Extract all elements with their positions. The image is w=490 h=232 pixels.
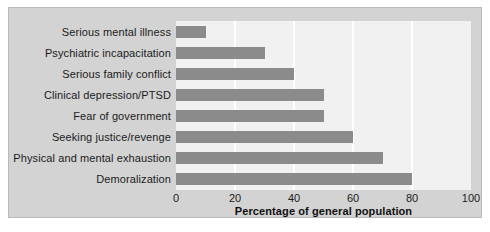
- category-label-row: Clinical depression/PTSD: [9, 84, 171, 105]
- category-label: Physical and mental exhaustion: [13, 152, 171, 164]
- bar-row: [176, 42, 471, 63]
- x-tick-label: 40: [288, 192, 300, 204]
- category-label: Serious mental illness: [62, 26, 171, 38]
- x-tick-label: 80: [406, 192, 418, 204]
- category-label: Seeking justice/revenge: [52, 131, 171, 143]
- bar: [176, 152, 383, 164]
- x-axis-title: Percentage of general population: [176, 205, 471, 217]
- bar-row: [176, 127, 471, 148]
- category-label-row: Psychiatric incapacitation: [9, 42, 171, 63]
- category-label-row: Serious mental illness: [9, 21, 171, 42]
- x-tick-label: 100: [462, 192, 480, 204]
- plot-area: [176, 21, 471, 190]
- chart-figure: Serious mental illness Psychiatric incap…: [8, 7, 482, 218]
- bar-row: [176, 63, 471, 84]
- bar-row: [176, 84, 471, 105]
- bar: [176, 26, 206, 38]
- bar-row: [176, 21, 471, 42]
- bar: [176, 131, 353, 143]
- category-label: Serious family conflict: [62, 68, 171, 80]
- category-label-row: Fear of government: [9, 106, 171, 127]
- category-axis-labels: Serious mental illness Psychiatric incap…: [9, 21, 171, 190]
- category-label: Psychiatric incapacitation: [45, 47, 171, 59]
- bar: [176, 89, 324, 101]
- category-label-row: Demoralization: [9, 169, 171, 190]
- bar-row: [176, 169, 471, 190]
- category-label-row: Serious family conflict: [9, 63, 171, 84]
- bar: [176, 110, 324, 122]
- bar: [176, 173, 412, 185]
- x-tick-label: 60: [347, 192, 359, 204]
- category-label-row: Seeking justice/revenge: [9, 127, 171, 148]
- category-label: Demoralization: [96, 173, 171, 185]
- category-label-row: Physical and mental exhaustion: [9, 148, 171, 169]
- x-tick-label: 20: [229, 192, 241, 204]
- category-label: Clinical depression/PTSD: [44, 89, 171, 101]
- bar: [176, 68, 294, 80]
- bar-row: [176, 148, 471, 169]
- category-label: Fear of government: [73, 110, 171, 122]
- bar-row: [176, 106, 471, 127]
- bar: [176, 47, 265, 59]
- x-tick-label: 0: [173, 192, 179, 204]
- bar-series: [176, 21, 471, 190]
